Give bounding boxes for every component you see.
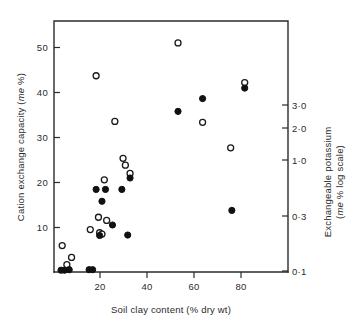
data-point xyxy=(87,227,93,233)
y-axis-left-ticks: 50 40 30 20 10 xyxy=(37,42,60,233)
data-point xyxy=(112,118,118,124)
data-point xyxy=(199,95,205,101)
data-point xyxy=(95,214,101,220)
y-ticklabel-10: 10 xyxy=(37,222,48,233)
y-ticklabel-50: 50 xyxy=(37,42,48,53)
y-ticklabel-30: 30 xyxy=(37,132,48,143)
data-point xyxy=(175,40,181,46)
data-point xyxy=(90,267,96,273)
plot-frame xyxy=(54,21,288,272)
y-axis-right-ticks: 3·0 2·0 1·0 0·3 0·1 xyxy=(282,100,307,277)
y-right-title-italic: me xyxy=(334,202,345,216)
y-right-ticklabel-1-0: 1·0 xyxy=(292,155,307,166)
y-left-title-part1: Cation exchange capacity ( xyxy=(15,101,26,221)
data-point xyxy=(122,162,128,168)
y-ticklabel-40: 40 xyxy=(37,87,48,98)
data-point xyxy=(242,85,248,91)
x-ticklabel-20: 20 xyxy=(94,281,105,292)
data-point xyxy=(93,186,99,192)
series-open-circles xyxy=(59,40,248,268)
y-axis-left-title-group: Cation exchange capacity (me %) xyxy=(15,73,26,221)
y-axis-right-title-line2: (me % log scale) xyxy=(334,145,345,219)
y-left-title-italic: me xyxy=(15,88,26,102)
x-ticklabel-60: 60 xyxy=(188,281,199,292)
series-filled-circles xyxy=(58,85,248,273)
data-point xyxy=(101,177,107,183)
data-point xyxy=(200,119,206,125)
data-point xyxy=(97,232,103,238)
x-axis-ticks: 20 40 60 80 xyxy=(94,272,246,292)
plot-border xyxy=(54,21,288,272)
y-right-ticklabel-0-1: 0·1 xyxy=(292,266,307,277)
y-left-title-part2: %) xyxy=(15,73,26,88)
y-ticklabel-20: 20 xyxy=(37,177,48,188)
y-axis-left-title: Cation exchange capacity (me %) xyxy=(15,73,26,221)
data-point xyxy=(229,207,235,213)
data-point xyxy=(102,186,108,192)
chart-canvas: 50 40 30 20 10 3·0 2·0 1·0 0·3 0·1 20 xyxy=(0,0,353,330)
x-ticklabel-40: 40 xyxy=(141,281,152,292)
x-ticklabel-80: 80 xyxy=(235,281,246,292)
y-right-ticklabel-0-3: 0·3 xyxy=(292,211,307,222)
data-point xyxy=(59,243,65,249)
x-axis-title: Soil clay content (% dry wt) xyxy=(111,304,231,315)
data-point xyxy=(127,175,133,181)
data-point xyxy=(119,186,125,192)
data-point xyxy=(175,108,181,114)
data-point xyxy=(228,145,234,151)
data-point xyxy=(120,155,126,161)
y-right-title-rest: % log scale) xyxy=(334,145,345,202)
data-point xyxy=(99,198,105,204)
y-right-ticklabel-3-0: 3·0 xyxy=(292,100,307,111)
y-right-ticklabel-2-0: 2·0 xyxy=(292,123,307,134)
data-point xyxy=(93,73,99,79)
data-point xyxy=(125,232,131,238)
data-point xyxy=(69,254,75,260)
scatter-plot-figure: 50 40 30 20 10 3·0 2·0 1·0 0·3 0·1 20 xyxy=(0,0,353,330)
data-point xyxy=(109,222,115,228)
data-point xyxy=(104,217,110,223)
data-point xyxy=(66,267,72,273)
y-axis-right-title-line1: Exchangeable potassium xyxy=(322,127,333,238)
y-axis-right-title-group: Exchangeable potassium (me % log scale) xyxy=(322,127,345,238)
